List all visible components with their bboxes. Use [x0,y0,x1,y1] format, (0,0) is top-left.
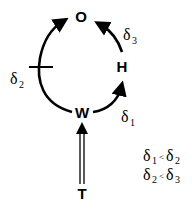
pathway-diagram: O H W T δ 3 δ 2 δ 1 δ 1 < δ 2 δ 2 < δ 3 [0,0,192,209]
inequality-2: δ 2 < δ 3 [143,166,180,185]
node-t: T [77,185,86,202]
label-delta-2: δ 2 [10,70,24,90]
svg-text:δ: δ [166,166,174,183]
svg-text:2: 2 [152,174,157,185]
svg-text:2: 2 [175,155,180,166]
svg-text:3: 3 [175,174,180,185]
node-w: W [75,104,90,121]
svg-text:<: < [159,171,164,181]
w-to-h-arc [93,88,121,112]
svg-text:δ: δ [166,147,174,164]
svg-text:δ: δ [121,108,129,125]
svg-text:1: 1 [130,117,135,128]
svg-text:3: 3 [132,35,137,46]
svg-text:2: 2 [19,79,24,90]
h-to-o-arc [101,25,122,52]
svg-text:1: 1 [152,155,157,166]
t-to-w-double-arrow [76,122,88,184]
node-o: O [75,8,87,25]
label-delta-3: δ 3 [123,26,137,46]
node-h: H [117,58,128,75]
svg-text:δ: δ [10,70,18,87]
svg-text:δ: δ [143,147,151,164]
svg-text:δ: δ [123,26,131,43]
inequality-1: δ 1 < δ 2 [143,147,180,166]
svg-text:δ: δ [143,166,151,183]
svg-text:<: < [159,152,164,162]
label-delta-1: δ 1 [121,108,135,128]
